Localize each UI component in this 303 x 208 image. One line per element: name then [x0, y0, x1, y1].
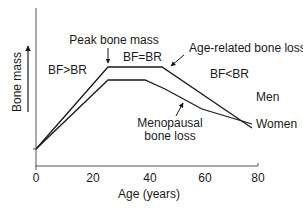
- bone-mass-chart: 0 20 40 60 80 Age (years) Bone mass Peak…: [0, 0, 303, 208]
- age-loss-arrow-icon: [171, 55, 184, 66]
- men-label: Men: [256, 90, 279, 104]
- y-axis-label: Bone mass: [10, 52, 24, 112]
- x-axis-label: Age (years): [118, 187, 180, 201]
- x-tick-20: 20: [86, 171, 100, 185]
- x-tick-80: 80: [251, 171, 265, 185]
- menopausal-arrow-icon: [176, 103, 183, 116]
- bf-lt-br-label: BF<BR: [210, 67, 249, 81]
- x-tick-40: 40: [143, 171, 157, 185]
- x-tick-60: 60: [198, 171, 212, 185]
- x-tick-0: 0: [33, 171, 40, 185]
- women-label: Women: [256, 117, 297, 131]
- peak-bone-mass-label: Peak bone mass: [69, 33, 158, 47]
- bf-gt-br-label: BF>BR: [48, 63, 87, 77]
- menopausal-label-line1: Menopausal: [137, 116, 202, 130]
- bf-eq-br-label: BF=BR: [123, 50, 162, 64]
- menopausal-label-line2: bone loss: [144, 129, 195, 143]
- age-related-loss-label: Age-related bone loss: [189, 41, 303, 55]
